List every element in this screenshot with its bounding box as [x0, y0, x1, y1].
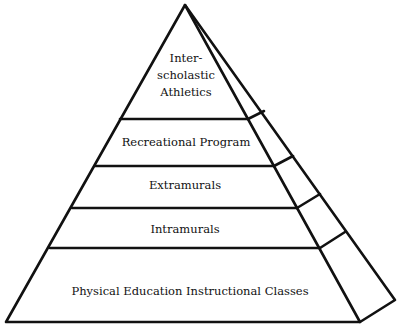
tier-label-line: Intramurals	[150, 221, 219, 238]
tier-label-4: Intramurals	[150, 221, 219, 238]
side-connector-3	[297, 194, 320, 208]
tier-label-line: Recreational Program	[122, 134, 251, 151]
side-connector-2	[274, 156, 293, 166]
tier-label-3: Extramurals	[149, 177, 221, 194]
tier-label-2: Recreational Program	[122, 134, 251, 151]
tier-label-line: Extramurals	[149, 177, 221, 194]
side-connector-4	[320, 232, 345, 248]
side-connector-1	[248, 111, 264, 119]
tier-label-line: Inter-	[157, 50, 215, 67]
tier-label-line: Physical Education Instructional Classes	[71, 283, 308, 300]
tier-label-line: Athletics	[157, 84, 215, 101]
pyramid-side-face	[185, 5, 395, 322]
tier-label-line: scholastic	[157, 67, 215, 84]
tier-label-5: Physical Education Instructional Classes	[71, 283, 308, 300]
tier-label-1: Inter-scholasticAthletics	[157, 50, 215, 101]
